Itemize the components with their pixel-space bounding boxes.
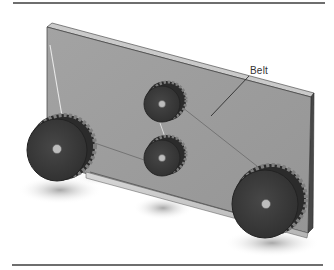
large-pulley-left (27, 114, 95, 181)
belt-drive-figure: Belt (0, 0, 334, 270)
belt-callout-label: Belt (250, 65, 268, 76)
belt-drive-illustration (0, 0, 334, 270)
hub-hole (159, 101, 166, 108)
hub-hole (262, 200, 271, 209)
hub-hole (159, 155, 166, 162)
bottom-rule-divider (12, 264, 323, 266)
hub-hole (53, 145, 62, 154)
